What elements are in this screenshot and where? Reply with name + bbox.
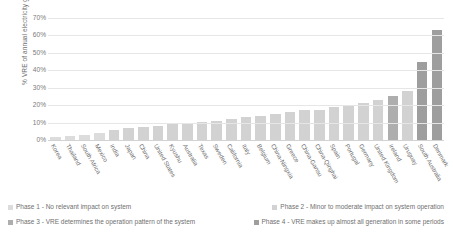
bar[interactable]: [182, 123, 193, 140]
legend-item-phase-1: Phase 1 - No relevant impact on system: [8, 204, 272, 211]
x-label-slot: Kyushu: [165, 141, 180, 195]
x-label-slot: Belgium: [253, 141, 268, 195]
legend-row-2: Phase 3 - VRE determines the operation p…: [8, 215, 444, 230]
gridline: [48, 35, 444, 36]
x-label-slot: Germany: [356, 141, 371, 195]
y-axis-tick-label: 10%: [22, 119, 46, 126]
x-label-slot: Portugal: [341, 141, 356, 195]
x-label-slot: China: [136, 141, 151, 195]
legend-swatch-icon: [272, 205, 277, 210]
legend-label: Phase 2 - Minor to moderate impact on sy…: [280, 204, 444, 211]
legend-label: Phase 4 - VRE makes up almost all genera…: [262, 219, 444, 226]
x-label-slot: Japan: [121, 141, 136, 195]
chart-root: % VRE of annual electricity generation 7…: [0, 0, 450, 240]
bar[interactable]: [241, 117, 252, 140]
x-label-slot: Uruguay: [400, 141, 415, 195]
bar[interactable]: [211, 121, 222, 140]
bar[interactable]: [285, 112, 296, 140]
x-label-slot: Greece: [283, 141, 298, 195]
legend-row-1: Phase 1 - No relevant impact on system P…: [8, 200, 444, 215]
bar[interactable]: [255, 116, 266, 140]
x-axis-tick-label: China: [138, 143, 151, 160]
bar[interactable]: [123, 128, 134, 140]
bar[interactable]: [197, 122, 208, 140]
legend-item-phase-2: Phase 2 - Minor to moderate impact on sy…: [272, 204, 444, 211]
y-axis-tick-labels: 70%60%50%40%30%20%10%0%: [22, 18, 46, 140]
gridline: [48, 123, 444, 124]
bar[interactable]: [138, 127, 149, 140]
x-label-slot: Thailand: [63, 141, 78, 195]
bar[interactable]: [94, 133, 105, 140]
bar[interactable]: [299, 110, 310, 140]
y-axis-tick-label: 40%: [22, 67, 46, 74]
legend-label: Phase 1 - No relevant impact on system: [16, 204, 131, 211]
chart-legend: Phase 1 - No relevant impact on system P…: [8, 200, 444, 234]
gridline: [48, 105, 444, 106]
x-label-slot: Korea: [48, 141, 63, 195]
x-axis-tick-labels: KoreaThailandSouth AfricaMexicoIndiaJapa…: [48, 141, 444, 195]
bar[interactable]: [65, 136, 76, 140]
x-axis-tick-label: Spain: [329, 143, 342, 160]
y-axis-tick-label: 0%: [22, 137, 46, 144]
y-axis-tick-label: 60%: [22, 32, 46, 39]
x-label-slot: Denmark: [429, 141, 444, 195]
x-label-slot: California: [224, 141, 239, 195]
x-axis-tick-label: India: [109, 143, 121, 158]
legend-label: Phase 3 - VRE determines the operation p…: [16, 219, 195, 226]
x-label-slot: South Africa: [77, 141, 92, 195]
legend-item-phase-3: Phase 3 - VRE determines the operation p…: [8, 219, 254, 226]
x-label-slot: Australia: [180, 141, 195, 195]
bar[interactable]: [358, 103, 369, 140]
x-label-slot: South Australia: [415, 141, 430, 195]
bar[interactable]: [270, 114, 281, 140]
legend-swatch-icon: [254, 220, 259, 225]
x-label-slot: Sweden: [209, 141, 224, 195]
bar[interactable]: [153, 126, 164, 140]
vre-generation-bar-chart: % VRE of annual electricity generation 7…: [0, 0, 450, 196]
x-label-slot: Italy: [239, 141, 254, 195]
x-label-slot: China-Qinghai: [312, 141, 327, 195]
legend-item-phase-4: Phase 4 - VRE makes up almost all genera…: [254, 219, 444, 226]
bar[interactable]: [314, 110, 325, 141]
bar[interactable]: [417, 62, 428, 140]
bar[interactable]: [388, 96, 399, 140]
x-label-slot: China-Ningxia: [268, 141, 283, 195]
x-label-slot: Spain: [327, 141, 342, 195]
x-label-slot: India: [107, 141, 122, 195]
x-label-slot: United Kingdom: [371, 141, 386, 195]
bar[interactable]: [79, 135, 90, 140]
x-axis-tick-label: Texas: [197, 143, 210, 160]
bar[interactable]: [109, 130, 120, 140]
y-axis-tick-label: 50%: [22, 50, 46, 57]
x-axis-tick-label: Italy: [241, 143, 252, 156]
y-axis-tick-label: 70%: [22, 15, 46, 22]
gridline: [48, 53, 444, 54]
gridline: [48, 88, 444, 89]
gridline: [48, 18, 444, 19]
legend-swatch-icon: [8, 220, 13, 225]
y-axis-tick-label: 20%: [22, 102, 46, 109]
bar[interactable]: [167, 124, 178, 140]
y-axis-tick-label: 30%: [22, 84, 46, 91]
bar[interactable]: [402, 91, 413, 140]
x-label-slot: Mexico: [92, 141, 107, 195]
x-axis-tick-label: Korea: [50, 143, 64, 160]
x-axis-tick-label: Denmark: [431, 143, 449, 168]
x-label-slot: United States: [151, 141, 166, 195]
gridline: [48, 70, 444, 71]
x-label-slot: China-Gansu: [297, 141, 312, 195]
bar[interactable]: [50, 137, 61, 140]
x-label-slot: Texas: [195, 141, 210, 195]
plot-area: [48, 18, 444, 141]
x-label-slot: Ireland: [385, 141, 400, 195]
legend-swatch-icon: [8, 205, 13, 210]
